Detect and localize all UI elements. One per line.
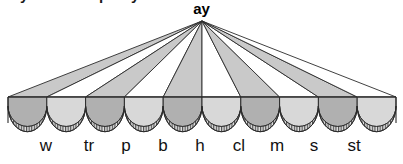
- onset-label-row: w tr p b h cl m s st: [0, 136, 403, 162]
- onset-rime-fan-diagram: y p y ay w tr p b h cl m s st: [0, 0, 403, 164]
- onset-label-w: w: [40, 136, 52, 156]
- fan-rays: [8, 21, 396, 97]
- onset-label-h: h: [195, 136, 204, 156]
- onset-label-st: st: [347, 136, 360, 156]
- onset-label-p: p: [121, 136, 130, 156]
- onset-label-m: m: [270, 136, 284, 156]
- onset-label-s: s: [310, 136, 319, 156]
- onset-label-tr: tr: [84, 136, 94, 156]
- onset-label-b: b: [158, 136, 167, 156]
- arch-arcade: [8, 97, 396, 132]
- onset-label-cl: cl: [233, 136, 245, 156]
